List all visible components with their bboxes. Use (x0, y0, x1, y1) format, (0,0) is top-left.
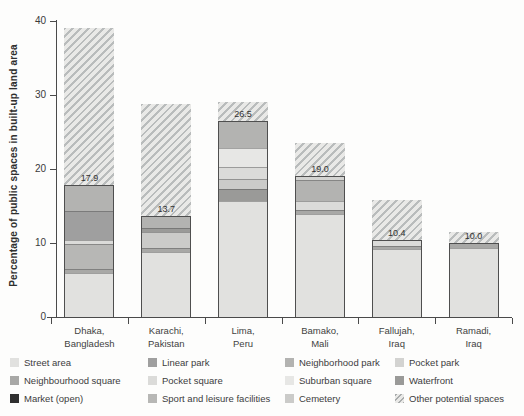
x-category-label: Karachi,Pakistan (128, 324, 205, 350)
bar-bamako: 19.0 (295, 143, 345, 317)
x-category-city: Bamako, (282, 324, 359, 337)
segment-neighborhood-park (65, 186, 113, 212)
legend-item-pocket-park: Pocket park (395, 353, 504, 371)
legend-item-waterfront: Waterfront (395, 371, 504, 389)
segment-suburban-square (219, 148, 267, 166)
bar-dhaka: 17.9 (64, 28, 114, 317)
legend-swatch-linear-park (148, 358, 157, 367)
bar-fallujah: 10.4 (372, 200, 422, 317)
segment-street-area (65, 273, 113, 317)
segment-neighborhood-park (142, 217, 190, 229)
x-category-label: Lima,Peru (205, 324, 282, 350)
x-category-label: Dhaka,Bangladesh (51, 324, 128, 350)
segment-street-area (450, 248, 498, 317)
segment-street-area (219, 201, 267, 317)
legend-swatch-sport-leisure (148, 394, 157, 403)
category-slot: 17.9 (51, 21, 128, 317)
legend-item-market-open: Market (open) (10, 389, 121, 407)
y-tick-label: 10 (22, 237, 46, 249)
other-potential-spaces-segment (64, 28, 114, 184)
category-slot: 19.0 (281, 21, 358, 317)
bar-value-label: 19.0 (295, 164, 345, 174)
chart-legend: Street areaNeighbourhood squareMarket (o… (0, 353, 524, 413)
legend-item-suburban-square: Suburban square (285, 371, 380, 389)
x-category-city: Dhaka, (51, 324, 128, 337)
legend-label: Other potential spaces (409, 393, 504, 404)
x-category-label: Bamako,Mali (282, 324, 359, 350)
category-slot: 10.0 (435, 21, 512, 317)
legend-label: Pocket square (162, 375, 223, 386)
legend-column: Linear parkPocket squareSport and leisur… (148, 353, 270, 407)
segment-sport-leisure (65, 244, 113, 269)
segment-linear-park (65, 211, 113, 240)
legend-swatch-neighbourhood-square (10, 376, 19, 385)
legend-label: Neighborhood park (299, 357, 380, 368)
legend-label: Waterfront (409, 375, 453, 386)
x-category-country: Bangladesh (51, 337, 128, 350)
legend-label: Neighbourhood square (24, 375, 121, 386)
segment-cemetery (219, 179, 267, 189)
bar-lima: 26.5 (218, 102, 268, 317)
public-space-stack (449, 243, 499, 317)
bar-value-label: 10.4 (372, 228, 422, 238)
bar-karachi: 13.7 (141, 104, 191, 317)
x-category-country: Iraq (435, 337, 512, 350)
legend-swatch-waterfront (395, 376, 404, 385)
bar-value-label: 17.9 (64, 173, 114, 183)
x-category-label: Fallujah,Iraq (358, 324, 435, 350)
bar-value-label: 26.5 (218, 109, 268, 119)
legend-swatch-other-potential (395, 394, 404, 403)
public-space-stack (141, 216, 191, 317)
segment-neighborhood-park (219, 122, 267, 148)
legend-item-sport-leisure: Sport and leisure facilities (148, 389, 270, 407)
category-slot: 26.5 (205, 21, 282, 317)
segment-street-area (373, 249, 421, 317)
legend-swatch-market-open (10, 394, 19, 403)
other-potential-spaces-segment (141, 104, 191, 216)
legend-label: Cemetery (299, 393, 340, 404)
x-category-country: Mali (282, 337, 359, 350)
segment-pocket-square (296, 201, 344, 211)
legend-item-other-potential: Other potential spaces (395, 389, 504, 407)
x-category-label: Ramadi,Iraq (435, 324, 512, 350)
legend-label: Street area (24, 357, 71, 368)
public-space-stack (372, 240, 422, 317)
y-tick-label: 20 (22, 163, 46, 175)
y-tick-label: 30 (22, 89, 46, 101)
public-space-stack (218, 121, 268, 317)
legend-item-street-area: Street area (10, 353, 121, 371)
segment-street-area (142, 252, 190, 317)
x-category-country: Peru (205, 337, 282, 350)
legend-item-linear-park: Linear park (148, 353, 270, 371)
segment-cemetery (142, 232, 190, 248)
plot-area: 17.913.726.519.010.410.0 (51, 21, 512, 317)
bar-ramadi: 10.0 (449, 232, 499, 317)
x-category-country: Iraq (358, 337, 435, 350)
segment-pocket-square (219, 167, 267, 179)
legend-label: Sport and leisure facilities (162, 393, 270, 404)
legend-label: Suburban square (299, 375, 372, 386)
x-category-city: Fallujah, (358, 324, 435, 337)
legend-swatch-suburban-square (285, 376, 294, 385)
public-space-stack (295, 176, 345, 317)
category-slot: 13.7 (128, 21, 205, 317)
x-category-country: Pakistan (128, 337, 205, 350)
x-category-city: Lima, (205, 324, 282, 337)
legend-item-neighbourhood-square: Neighbourhood square (10, 371, 121, 389)
legend-item-neighborhood-park: Neighborhood park (285, 353, 380, 371)
legend-label: Linear park (162, 357, 210, 368)
x-category-city: Karachi, (128, 324, 205, 337)
legend-column: Street areaNeighbourhood squareMarket (o… (10, 353, 121, 407)
legend-swatch-pocket-square (148, 376, 157, 385)
legend-column: Neighborhood parkSuburban squareCemetery (285, 353, 380, 407)
legend-swatch-neighborhood-park (285, 358, 294, 367)
stacked-bar-chart-figure: Percentage of public spaces in built-up … (0, 0, 524, 416)
public-space-stack (64, 185, 114, 317)
y-tick-label: 0 (22, 311, 46, 323)
legend-swatch-street-area (10, 358, 19, 367)
legend-item-pocket-square: Pocket square (148, 371, 270, 389)
y-tick-label: 40 (22, 15, 46, 27)
legend-label: Market (open) (24, 393, 83, 404)
legend-item-cemetery: Cemetery (285, 389, 380, 407)
x-axis-line (47, 317, 512, 318)
